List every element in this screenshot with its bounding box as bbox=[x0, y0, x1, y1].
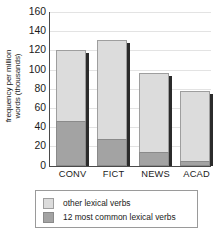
gridline bbox=[50, 31, 211, 32]
legend-item-other-lexical-verbs: other lexical verbs bbox=[43, 197, 131, 209]
legend: other lexical verbs 12 most common lexic… bbox=[35, 190, 198, 228]
y-tick-label: 20 bbox=[0, 141, 46, 151]
y-tick-label: 120 bbox=[0, 45, 46, 55]
x-tick-label: FICT bbox=[103, 169, 124, 179]
legend-item-12-most-common-lexical-verbs: 12 most common lexical verbs bbox=[43, 211, 176, 223]
y-tick-label: 0 bbox=[0, 160, 46, 170]
bar-chart: frequency per million words (thousands) … bbox=[0, 0, 214, 234]
bar-shadow bbox=[127, 43, 130, 166]
table-row[interactable] bbox=[139, 73, 169, 166]
bar-shadow bbox=[86, 53, 89, 165]
x-tick-label: NEWS bbox=[141, 169, 170, 179]
legend-label-other-lexical-verbs: other lexical verbs bbox=[63, 199, 131, 208]
x-tick-label: CONV bbox=[59, 169, 87, 179]
y-tick-label: 160 bbox=[0, 7, 46, 17]
bar-shadow bbox=[169, 76, 172, 166]
y-tick-label: 60 bbox=[0, 103, 46, 113]
bar-segment-other-lexical-verbs[interactable] bbox=[180, 91, 210, 166]
bar-shadow bbox=[210, 94, 213, 166]
y-tick-label: 80 bbox=[0, 84, 46, 94]
bar-segment-12-most-common-lexical-verbs[interactable] bbox=[180, 161, 210, 166]
y-tick-label: 40 bbox=[0, 122, 46, 132]
table-row[interactable] bbox=[56, 50, 86, 165]
bar-segment-12-most-common-lexical-verbs[interactable] bbox=[56, 121, 86, 166]
bar-segment-12-most-common-lexical-verbs[interactable] bbox=[139, 152, 169, 165]
y-tick-label: 100 bbox=[0, 64, 46, 74]
table-row[interactable] bbox=[180, 91, 210, 166]
legend-swatch-other-lexical-verbs bbox=[43, 198, 54, 209]
y-tick-label: 140 bbox=[0, 26, 46, 36]
bar-segment-12-most-common-lexical-verbs[interactable] bbox=[97, 139, 127, 166]
gridline bbox=[50, 12, 211, 13]
x-tick-label: ACAD bbox=[183, 169, 210, 179]
legend-label-12-most-common-lexical-verbs: 12 most common lexical verbs bbox=[63, 213, 176, 222]
table-row[interactable] bbox=[97, 40, 127, 166]
x-axis-line bbox=[49, 166, 211, 167]
plot-area: 160140120100806040200 CONVFICTNEWSACAD bbox=[49, 12, 211, 167]
legend-swatch-12-most-common-lexical-verbs bbox=[43, 212, 54, 223]
